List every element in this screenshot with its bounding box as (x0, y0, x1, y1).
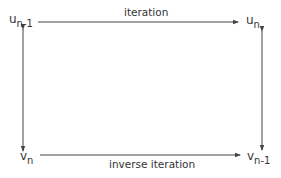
node-subscript: n (254, 19, 260, 30)
iteration-label: iteration (124, 7, 168, 18)
node-v-n: vn (20, 150, 33, 166)
inverse-iteration-label: inverse iteration (109, 159, 195, 170)
node-v-n-minus-1: vn-1 (247, 150, 270, 166)
node-subscript: n (27, 155, 33, 166)
diagram-canvas (0, 0, 281, 178)
node-u-n-minus-1: un-1 (9, 13, 33, 29)
node-base: u (246, 13, 254, 27)
node-base: u (9, 12, 17, 26)
node-subscript: n-1 (254, 155, 270, 166)
node-subscript: n-1 (17, 18, 33, 29)
node-u-n: un (246, 14, 260, 30)
